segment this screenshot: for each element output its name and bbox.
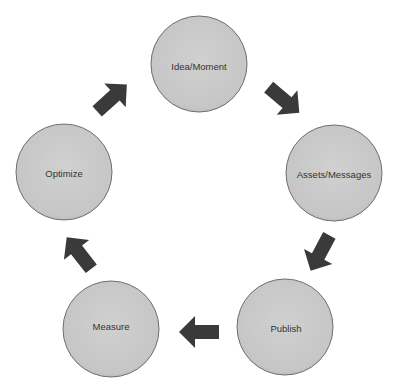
diagram-canvas	[0, 0, 396, 392]
arrow-publish-to-measure-icon	[179, 316, 219, 348]
cycle-diagram: Idea/Moment Assets/Messages Publish Meas…	[0, 0, 396, 392]
node-publish-label: Publish	[270, 323, 301, 334]
node-optimize-label: Optimize	[45, 168, 82, 179]
node-idea-label: Idea/Moment	[171, 61, 226, 72]
node-measure-label: Measure	[93, 321, 130, 332]
arrow-idea-to-assets-icon	[258, 75, 309, 125]
node-assets-label: Assets/Messages	[297, 169, 371, 180]
arrow-measure-to-optimize-icon	[54, 227, 104, 278]
arrow-assets-to-publish-icon	[296, 228, 343, 278]
arrow-optimize-to-idea-icon	[86, 73, 137, 124]
